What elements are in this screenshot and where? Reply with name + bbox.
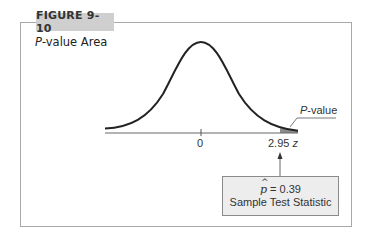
pvalue-label: P-value bbox=[300, 104, 337, 116]
tick-test-stat-value: 2.95 bbox=[268, 137, 289, 149]
tick-label-zero: 0 bbox=[197, 137, 203, 149]
test-statistic-caption: Sample Test Statistic bbox=[230, 196, 332, 209]
test-statistic-equals: = 0.39 bbox=[267, 183, 301, 195]
pvalue-label-rest: -value bbox=[307, 104, 337, 116]
axis-variable-z: z bbox=[292, 137, 298, 149]
test-statistic-callout: p = 0.39 Sample Test Statistic bbox=[222, 176, 339, 216]
tick-label-test-stat: 2.95 z bbox=[268, 137, 298, 149]
test-statistic-value: p = 0.39 bbox=[260, 183, 301, 196]
normal-curve bbox=[105, 42, 298, 131]
pvalue-leader-line bbox=[290, 118, 336, 127]
p-hat-symbol: p bbox=[260, 183, 267, 196]
callout-arrow-head bbox=[278, 152, 283, 159]
